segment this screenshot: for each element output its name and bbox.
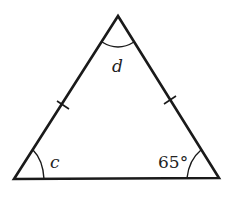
left-angle-label: c (50, 152, 60, 172)
right-angle-label: 65° (158, 152, 188, 172)
triangle-diagram: d c 65° (0, 0, 225, 207)
apex-angle-arc (102, 42, 134, 47)
left-angle-arc (33, 150, 44, 179)
right-angle-arc (187, 150, 201, 178)
apex-angle-label: d (112, 56, 123, 76)
triangle (14, 16, 219, 179)
